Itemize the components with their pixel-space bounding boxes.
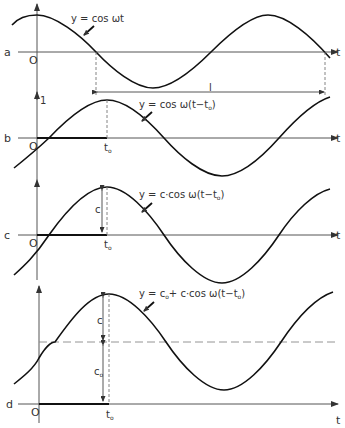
t0-label: to — [104, 239, 112, 251]
t-axis-label: t — [336, 46, 341, 59]
origin-label: O — [29, 54, 38, 67]
panel-label-c: c — [4, 229, 10, 242]
equation-label: y = cos ωt — [71, 13, 124, 24]
panel-label-d: d — [6, 398, 13, 411]
t-axis-label: t — [336, 414, 341, 427]
panel-b: 1 b O t to y = cos ω(t−to) — [4, 92, 341, 180]
panel-label-a: a — [4, 46, 11, 59]
amplitude-label: c — [95, 204, 101, 215]
period-label: l — [209, 82, 212, 93]
t-axis-label: t — [336, 132, 341, 145]
equation-label: y = cos ω(t−to) — [139, 99, 216, 111]
origin-label: O — [29, 237, 38, 250]
origin-label: O — [31, 406, 40, 419]
equation-label: y = c·cos ω(t−to) — [139, 189, 225, 201]
panel-c: c c O t to y = c·cos ω(t−to) — [4, 180, 341, 283]
pointer-arrow-icon — [144, 302, 154, 311]
panel-a: a O t y = cos ωt l — [4, 4, 341, 100]
y-tick-label: 1 — [40, 95, 46, 106]
origin-label: O — [29, 140, 38, 153]
equation-label: y = co+ c·cos ω(t−to) — [139, 288, 245, 300]
amplitude-label: c — [97, 315, 103, 326]
t0-label: to — [104, 142, 112, 154]
offset-label: co — [94, 366, 104, 378]
pointer-arrow-icon — [142, 203, 152, 212]
offset-cosine-curve — [14, 292, 333, 390]
t0-label: to — [106, 409, 114, 421]
panel-d: c co d O t to y = co+ c·cos ω(t−to) — [6, 286, 341, 427]
pointer-arrow-icon — [84, 26, 94, 35]
t-axis-label: t — [336, 229, 341, 242]
panel-label-b: b — [4, 132, 11, 145]
cosine-wave-diagram: a O t y = cos ωt l 1 b O t to y = cos ω(… — [0, 0, 345, 428]
